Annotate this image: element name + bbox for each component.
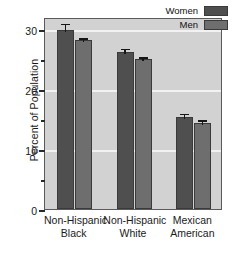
error-bar-cap [198,120,207,122]
y-axis-tick [39,150,45,152]
bar-women [57,30,74,209]
legend-swatch-women [204,6,228,16]
y-axis-title: Percent of Population [28,30,40,190]
bar-men [75,40,92,209]
y-axis-minor-tick [41,120,45,122]
bar-men [194,123,211,209]
y-axis-tick [39,90,45,92]
x-axis-category-line: Non-Hispanic [103,214,162,227]
error-bar-cap [139,57,148,59]
error-bar-cap [61,24,70,26]
x-axis-category-line: Mexican [163,214,222,227]
x-axis-category-line: American [163,227,222,240]
x-axis-category-label: Non-HispanicBlack [44,214,103,240]
bar-men [135,59,152,209]
x-axis-category-line: White [103,227,162,240]
bar-women [117,52,134,209]
y-axis-tick-label: 10 [25,145,37,157]
error-bar-cap [180,114,189,116]
x-axis-category-label: MexicanAmerican [163,214,222,240]
x-axis-category-line: Black [44,227,103,240]
chart-legend: Women Men [165,5,228,33]
legend-item-women: Women [165,5,228,16]
y-axis-minor-tick [41,60,45,62]
error-bar-cap [79,38,88,40]
y-axis-tick-label: 0 [31,205,37,217]
y-axis-tick-label: 30 [25,25,37,37]
y-axis-tick-label: 20 [25,85,37,97]
y-axis-tick [39,30,45,32]
error-bar-line [65,24,67,31]
y-axis-tick [39,210,45,212]
bar-chart-figure: Percent of Population 0102030 Women Men … [0,0,236,257]
legend-swatch-men [204,20,228,30]
legend-label-women: Women [165,5,198,16]
legend-item-men: Men [165,19,228,30]
y-axis-minor-tick [41,180,45,182]
bar-women [176,117,193,209]
x-axis-category-line: Non-Hispanic [44,214,103,227]
plot-area: 0102030 [44,18,222,210]
x-axis-category-label: Non-HispanicWhite [103,214,162,240]
legend-label-men: Men [180,19,198,30]
error-bar-cap [121,49,130,51]
